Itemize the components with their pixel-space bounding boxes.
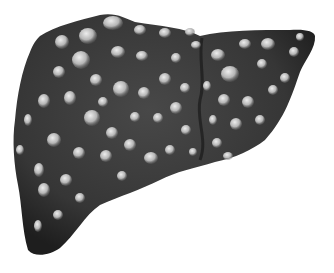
nodule (73, 147, 85, 159)
nodule (218, 94, 230, 106)
nodule (289, 47, 299, 57)
nodule (159, 73, 171, 85)
nodule (16, 145, 24, 155)
nodule (165, 145, 175, 155)
nodule (124, 139, 136, 151)
nodule (130, 112, 140, 122)
nodule (153, 113, 163, 123)
nodule (53, 210, 63, 220)
nodule (280, 73, 290, 83)
nodule (180, 83, 190, 93)
nodule (223, 152, 233, 160)
nodule (47, 133, 61, 147)
nodule (34, 163, 44, 177)
nodule (34, 220, 42, 232)
nodule (100, 150, 112, 162)
nodule (138, 87, 150, 99)
nodule (242, 96, 254, 108)
nodule (72, 51, 90, 69)
nodule (111, 46, 125, 58)
nodule (212, 138, 222, 148)
nodule (257, 59, 267, 69)
nodule (113, 81, 129, 97)
nodule (84, 110, 100, 126)
nodule (136, 51, 148, 61)
nodule (268, 85, 278, 95)
nodule (53, 66, 65, 78)
nodule (189, 148, 197, 156)
nodule (159, 28, 171, 38)
nodule (144, 152, 158, 164)
nodule (103, 16, 123, 30)
nodule (191, 41, 201, 49)
nodule (181, 125, 191, 135)
nodule (75, 193, 85, 203)
nodule (60, 174, 72, 186)
nodule (203, 81, 211, 91)
nodule (170, 102, 182, 114)
nodule (209, 115, 217, 125)
nodule (98, 97, 108, 107)
nodule (38, 183, 50, 197)
liver-illustration (0, 0, 334, 273)
nodule (38, 94, 50, 108)
nodule (134, 25, 146, 35)
nodule (117, 171, 127, 181)
nodule (211, 49, 225, 61)
nodule (221, 66, 239, 82)
nodule (64, 91, 76, 105)
nodule (55, 35, 69, 49)
nodule (296, 33, 304, 41)
nodule (79, 28, 97, 44)
nodule (185, 28, 195, 36)
nodule (261, 38, 275, 50)
nodule (90, 74, 102, 86)
nodule (24, 114, 32, 126)
nodule (230, 118, 242, 130)
nodule (239, 39, 251, 49)
nodule (171, 53, 181, 63)
nodule (106, 127, 118, 139)
nodule (255, 115, 265, 125)
